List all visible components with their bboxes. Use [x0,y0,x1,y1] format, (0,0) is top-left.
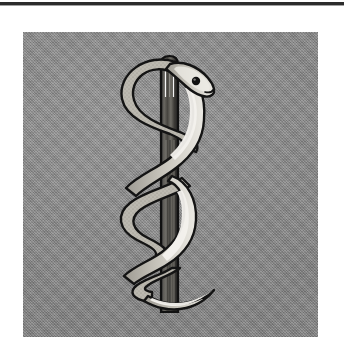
page-canvas: Rod of Asclepius Rod of Asclepius: a sin… [0,0,344,360]
illustration-panel: Rod of Asclepius Rod of Asclepius: a sin… [23,32,318,337]
rod-of-asclepius-icon: Rod of Asclepius: a single snake coiled … [23,32,318,337]
snake-eye [192,77,200,85]
top-horizontal-rule [0,2,344,5]
